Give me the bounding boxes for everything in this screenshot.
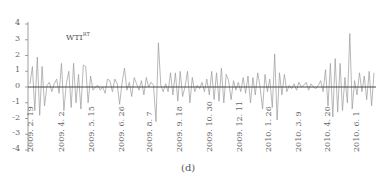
x-tick-label: 2009. 9. 18: [175, 106, 184, 152]
y-tick-label: -3: [8, 128, 20, 137]
x-tick-label: 2009. 5. 15: [87, 106, 96, 152]
x-tick-label: 2009. 6. 26: [117, 106, 126, 152]
x-tick-label: 2009. 12. 11: [235, 101, 244, 152]
y-tick-label: 2: [8, 50, 20, 59]
y-tick-label: 0: [8, 81, 20, 90]
y-tick-label: -2: [8, 113, 20, 122]
y-tick-label: -1: [8, 97, 20, 106]
chart-plot: [0, 0, 383, 187]
x-tick-label: 2009. 8. 7: [145, 111, 154, 152]
x-tick-label: 2010. 6. 1: [352, 111, 361, 152]
series-label-text: WTI: [66, 33, 83, 42]
y-tick-label: 1: [8, 65, 20, 74]
series-label-superscript: RT: [83, 31, 90, 37]
series-label: WTIRT: [66, 31, 90, 42]
x-tick-label: 2010. 3. 9: [294, 111, 303, 152]
y-tick-label: 4: [8, 18, 20, 27]
panel-caption: (d): [181, 162, 195, 173]
x-tick-label: 2010. 4. 20: [323, 106, 332, 152]
x-tick-label: 2010. 1. 26: [264, 106, 273, 152]
x-tick-label: 2009. 10. 30: [205, 101, 214, 152]
x-tick-label: 2009. 4. 2: [57, 111, 66, 152]
x-tick-label: 2009. 2. 19: [26, 106, 35, 152]
y-tick-label: 3: [8, 34, 20, 43]
y-tick-label: -4: [8, 144, 20, 153]
